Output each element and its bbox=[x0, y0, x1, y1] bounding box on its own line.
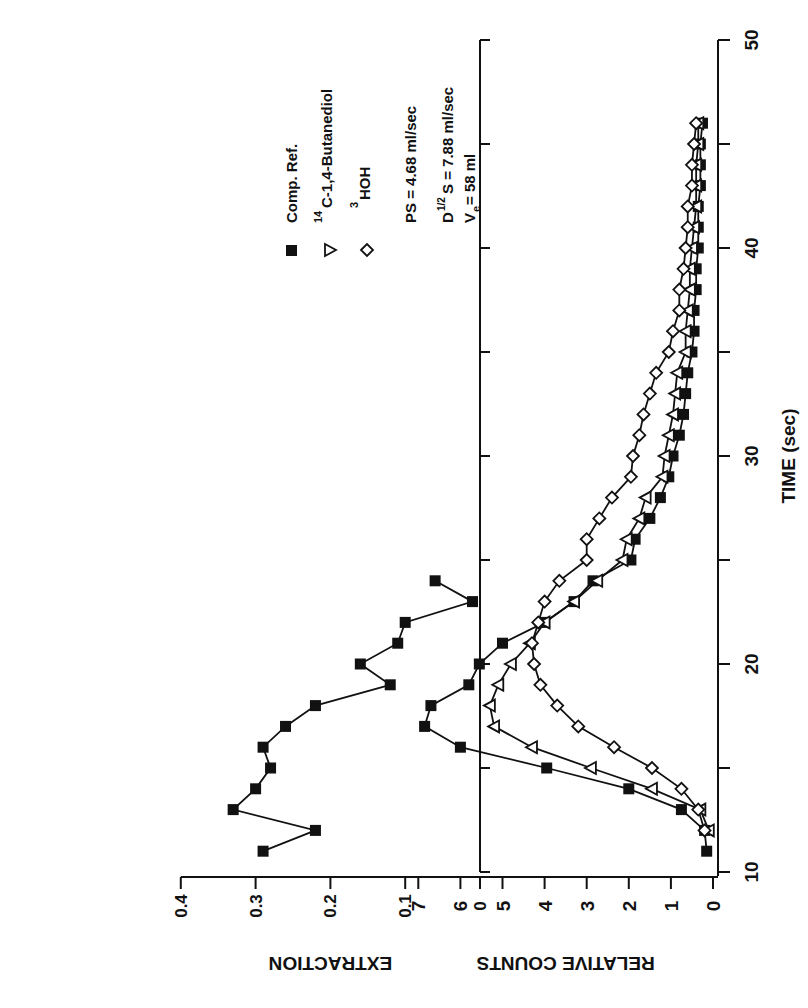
relative-counts-y-tick-label: 3 bbox=[577, 901, 598, 912]
param-d-rest: S = 7.88 ml/sec bbox=[439, 87, 456, 194]
filled-square-marker-icon bbox=[682, 367, 693, 378]
open-triangle-marker-icon bbox=[505, 658, 516, 670]
open-triangle-marker-icon bbox=[585, 762, 596, 774]
open-triangle-marker-icon bbox=[492, 679, 503, 691]
filled-square-marker-icon bbox=[497, 638, 508, 649]
filled-square-marker-icon bbox=[228, 804, 239, 815]
filled-square-marker-icon bbox=[355, 659, 366, 670]
legend-item-hoh: 3 HOH bbox=[348, 167, 373, 256]
extraction-y-tick-label: 0 bbox=[471, 901, 490, 910]
param-ve-sub: e bbox=[470, 206, 482, 212]
filled-square-marker-icon bbox=[474, 659, 485, 670]
open-diamond-marker-icon bbox=[680, 242, 692, 254]
filled-square-marker-icon bbox=[467, 596, 478, 607]
filled-square-marker-icon bbox=[623, 783, 634, 794]
open-diamond-marker-icon bbox=[650, 367, 662, 379]
filled-square-marker-icon bbox=[258, 846, 269, 857]
legend-label-comp-ref: Comp. Ref. bbox=[283, 144, 300, 223]
filled-square-marker-icon bbox=[680, 388, 691, 399]
open-diamond-marker-icon bbox=[673, 284, 685, 296]
legend-label-butanediol-sup: 14 bbox=[312, 210, 324, 223]
open-diamond-marker-icon bbox=[646, 762, 658, 774]
open-diamond-marker-icon bbox=[678, 263, 690, 275]
extraction-y-tick-labels: 00.10.20.30.4 bbox=[172, 894, 490, 918]
open-diamond-marker-icon bbox=[682, 200, 694, 212]
time-x-tick-label: 50 bbox=[741, 29, 762, 50]
series-line bbox=[532, 123, 705, 830]
time-x-tick-label: 40 bbox=[741, 237, 762, 258]
open-triangle-marker-icon bbox=[325, 244, 336, 256]
open-diamond-marker-icon bbox=[673, 304, 685, 316]
filled-square-marker-icon bbox=[644, 513, 655, 524]
chart-canvas: 00.10.20.30.4 EXTRACTION 1020304050 TIME… bbox=[0, 0, 808, 1008]
extraction-panel-time-ticks bbox=[480, 40, 490, 872]
filled-square-marker-icon bbox=[419, 721, 430, 732]
filled-square-marker-icon bbox=[310, 825, 321, 836]
open-diamond-marker-icon bbox=[638, 408, 650, 420]
relative-counts-y-tick-label: 7 bbox=[408, 901, 429, 912]
extraction-y-ticks bbox=[181, 877, 480, 889]
series-line bbox=[425, 123, 707, 851]
open-diamond-marker-icon bbox=[682, 221, 694, 233]
filled-square-marker-icon bbox=[676, 804, 687, 815]
open-diamond-marker-icon bbox=[593, 512, 605, 524]
relative-counts-y-tick-label: 0 bbox=[703, 901, 724, 912]
filled-square-marker-icon bbox=[286, 245, 297, 256]
time-x-ticks bbox=[718, 40, 730, 872]
open-triangle-marker-icon bbox=[484, 700, 495, 712]
filled-square-marker-icon bbox=[385, 679, 396, 690]
time-x-tick-label: 20 bbox=[741, 653, 762, 674]
legend-label-hoh: HOH bbox=[356, 167, 373, 200]
filled-square-marker-icon bbox=[655, 492, 666, 503]
open-diamond-marker-icon bbox=[608, 741, 620, 753]
param-ps: PS = 4.68 ml/sec bbox=[402, 106, 419, 223]
filled-square-marker-icon bbox=[280, 721, 291, 732]
param-ve: V e = 58 ml bbox=[461, 154, 482, 223]
relative-counts-y-tick-labels: 01234567 bbox=[408, 900, 724, 911]
open-diamond-marker-icon bbox=[633, 429, 645, 441]
open-diamond-marker-icon bbox=[667, 325, 679, 337]
filled-square-marker-icon bbox=[701, 846, 712, 857]
param-ve-prefix: V bbox=[461, 213, 478, 223]
filled-square-marker-icon bbox=[310, 700, 321, 711]
relative-counts-series bbox=[419, 117, 714, 857]
legend-item-butanediol: 14 C-1,4-Butanediol bbox=[312, 89, 336, 256]
filled-square-marker-icon bbox=[678, 409, 689, 420]
filled-square-marker-icon bbox=[541, 763, 552, 774]
open-diamond-marker-icon bbox=[361, 244, 373, 256]
time-x-tick-label: 30 bbox=[741, 445, 762, 466]
relative-counts-y-tick-label: 5 bbox=[493, 900, 514, 911]
open-diamond-marker-icon bbox=[663, 346, 675, 358]
time-axis-label: TIME (sec) bbox=[778, 408, 799, 503]
filled-square-marker-icon bbox=[425, 700, 436, 711]
filled-square-marker-icon bbox=[265, 763, 276, 774]
extraction-y-tick-label: 0.2 bbox=[321, 894, 340, 918]
series-line bbox=[490, 123, 709, 830]
relative-counts-y-tick-label: 1 bbox=[661, 900, 682, 911]
open-diamond-marker-icon bbox=[539, 596, 551, 608]
extraction-series bbox=[228, 575, 478, 856]
param-d-sup: 1/2 bbox=[436, 197, 447, 211]
param-ve-rest: = 58 ml bbox=[461, 154, 478, 205]
extraction-axis-label: EXTRACTION bbox=[269, 953, 393, 974]
filled-square-marker-icon bbox=[250, 783, 261, 794]
filled-square-marker-icon bbox=[392, 638, 403, 649]
time-x-tick-labels: 1020304050 bbox=[741, 29, 762, 882]
open-triangle-marker-icon bbox=[633, 512, 644, 524]
rotated-figure: 00.10.20.30.4 EXTRACTION 1020304050 TIME… bbox=[0, 0, 808, 1008]
open-diamond-marker-icon bbox=[526, 637, 538, 649]
legend-label-hoh-sup: 3 bbox=[348, 202, 360, 208]
open-diamond-marker-icon bbox=[627, 450, 639, 462]
open-triangle-marker-icon bbox=[526, 741, 537, 753]
extraction-y-tick-label: 0.4 bbox=[172, 894, 191, 918]
relative-counts-y-tick-label: 4 bbox=[535, 900, 556, 911]
filled-square-marker-icon bbox=[258, 742, 269, 753]
relative-counts-y-tick-label: 2 bbox=[619, 901, 640, 912]
filled-square-marker-icon bbox=[400, 617, 411, 628]
time-x-tick-label: 10 bbox=[741, 861, 762, 882]
relative-counts-y-ticks bbox=[418, 877, 713, 889]
filled-square-marker-icon bbox=[674, 430, 685, 441]
legend: Comp. Ref. 14 C-1,4-Butanediol 3 HOH PS … bbox=[283, 87, 482, 256]
open-diamond-marker-icon bbox=[644, 388, 656, 400]
relative-counts-y-tick-label: 6 bbox=[450, 901, 471, 912]
